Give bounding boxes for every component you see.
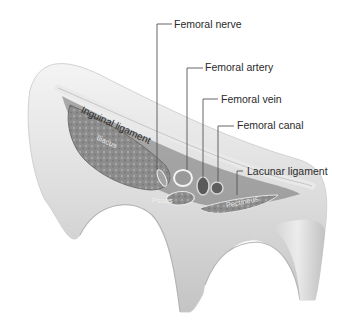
pelvis-illustration bbox=[0, 0, 343, 314]
label-psoas: Psoas bbox=[152, 196, 173, 205]
label-femoral-artery: Femoral artery bbox=[205, 61, 273, 73]
femoral-artery bbox=[174, 170, 192, 186]
femoral-canal bbox=[211, 182, 223, 194]
femoral-vein bbox=[197, 177, 209, 195]
label-femoral-vein: Femoral vein bbox=[221, 93, 282, 105]
label-femoral-nerve: Femoral nerve bbox=[174, 18, 242, 30]
label-femoral-canal: Femoral canal bbox=[237, 119, 304, 131]
diagram-canvas: Femoral nerve Femoral artery Femoral vei… bbox=[0, 0, 343, 314]
label-lacunar-ligament: Lacunar ligament bbox=[247, 165, 328, 177]
